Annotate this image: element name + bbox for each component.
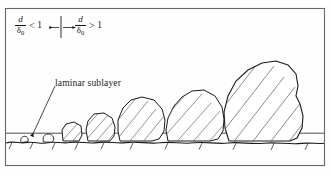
formula-left-value: 1 <box>37 20 42 30</box>
figure-root: d δ0 < 1 d δ0 > 1 laminar sublayer <box>0 0 331 176</box>
diagram-canvas <box>0 0 331 176</box>
bed-line <box>6 142 324 144</box>
fraction-numerator: d <box>17 15 24 25</box>
formula-right-value: 1 <box>97 20 102 30</box>
fraction-denominator: δ0 <box>16 26 26 36</box>
formula-rough-regime: d δ0 > 1 <box>75 15 102 35</box>
sublayer-leader-line <box>32 86 55 136</box>
delta-subscript: 0 <box>21 29 24 36</box>
grain-2 <box>43 134 54 142</box>
grain-7 <box>212 55 318 171</box>
laminar-sublayer-label: laminar sublayer <box>55 79 121 89</box>
grain-6 <box>156 85 229 162</box>
grain-4 <box>80 109 120 152</box>
formula-smooth-regime: d δ0 < 1 <box>15 15 42 35</box>
fraction-d-over-delta0-left: d δ0 <box>15 15 26 35</box>
relation-less-than: < <box>29 20 35 31</box>
fraction-denominator: δ0 <box>76 26 86 36</box>
relation-greater-than: > <box>89 20 95 31</box>
grain-5 <box>110 93 172 160</box>
grain-1 <box>21 136 29 142</box>
fraction-d-over-delta0-right: d δ0 <box>75 15 86 35</box>
delta-subscript: 0 <box>81 29 84 36</box>
fraction-numerator: d <box>77 15 84 25</box>
